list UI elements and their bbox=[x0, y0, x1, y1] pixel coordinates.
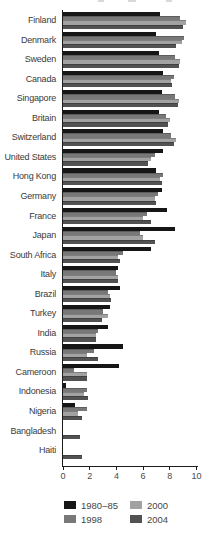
x-axis-tick bbox=[116, 467, 117, 470]
x-axis-tick-label: 8 bbox=[162, 471, 178, 481]
bar-group bbox=[63, 227, 175, 244]
bar-group bbox=[63, 168, 163, 185]
bar-2004 bbox=[63, 318, 102, 322]
bar-group bbox=[63, 247, 151, 264]
legend-label: 2004 bbox=[147, 513, 168, 526]
bar-group bbox=[63, 90, 179, 107]
x-axis-line bbox=[62, 466, 198, 467]
bar-group bbox=[63, 266, 118, 283]
country-label: Singapore bbox=[0, 90, 56, 107]
x-axis-tick-label: 10 bbox=[189, 471, 205, 481]
legend-item-1980-85: 1980–85 bbox=[64, 499, 128, 513]
country-label: Russia bbox=[0, 344, 56, 361]
x-axis-tick-label: 2 bbox=[82, 471, 98, 481]
country-label: Japan bbox=[0, 227, 56, 244]
bar-group bbox=[63, 51, 180, 68]
bar-2004 bbox=[63, 298, 111, 302]
x-axis-tick-label: 0 bbox=[55, 471, 71, 481]
cropped-title-remnant bbox=[128, 0, 136, 2]
x-axis-tick bbox=[143, 467, 144, 470]
bar-2004 bbox=[63, 357, 98, 361]
bar-2004 bbox=[63, 435, 80, 439]
bar-group bbox=[63, 149, 163, 166]
bar-group bbox=[63, 423, 80, 440]
cropped-title-remnant bbox=[98, 0, 104, 2]
bar-2004 bbox=[63, 122, 168, 126]
country-label: India bbox=[0, 325, 56, 342]
bar-2004 bbox=[63, 83, 172, 87]
legend-label: 1980–85 bbox=[81, 499, 118, 512]
country-label: Italy bbox=[0, 266, 56, 283]
legend-item-2004: 2004 bbox=[130, 513, 168, 527]
legend-item-1998: 1998 bbox=[64, 513, 128, 527]
country-label: Nigeria bbox=[0, 403, 56, 420]
bar-group bbox=[63, 403, 87, 420]
country-label: Germany bbox=[0, 188, 56, 205]
bar-2004 bbox=[63, 103, 178, 107]
country-label: Hong Kong bbox=[0, 168, 56, 185]
country-label: United States bbox=[0, 149, 56, 166]
x-axis-tick-label: 4 bbox=[108, 471, 124, 481]
country-label: Brazil bbox=[0, 286, 56, 303]
legend: 1980–85199820002004 bbox=[64, 499, 168, 527]
bar-2004 bbox=[63, 455, 82, 459]
bar-2004 bbox=[63, 142, 174, 146]
bar-2004 bbox=[63, 64, 179, 68]
bar-group bbox=[63, 344, 123, 361]
x-axis-tick bbox=[169, 467, 170, 470]
country-label: Denmark bbox=[0, 32, 56, 49]
legend-swatch-1980-85 bbox=[64, 501, 76, 509]
country-label: Indonesia bbox=[0, 383, 56, 400]
bar-group bbox=[63, 32, 184, 49]
bar-2004 bbox=[63, 240, 155, 244]
country-label: Cameroon bbox=[0, 364, 56, 381]
country-label: Canada bbox=[0, 71, 56, 88]
bar-group bbox=[63, 305, 110, 322]
bar-group bbox=[63, 129, 176, 146]
country-label: France bbox=[0, 208, 56, 225]
bar-group bbox=[63, 208, 167, 225]
bar-2004 bbox=[63, 201, 156, 205]
bar-group bbox=[63, 325, 108, 342]
country-label: Sweden bbox=[0, 51, 56, 68]
bar-2004 bbox=[63, 396, 88, 400]
x-axis-tick-label: 6 bbox=[135, 471, 151, 481]
x-axis-tick bbox=[89, 467, 90, 470]
x-axis-tick bbox=[63, 467, 64, 470]
bar-group bbox=[63, 383, 88, 400]
bar-group bbox=[63, 12, 186, 29]
bar-2004 bbox=[63, 376, 87, 380]
bar-2004 bbox=[63, 259, 120, 263]
bar-group bbox=[63, 364, 119, 381]
bar-2004 bbox=[63, 279, 118, 283]
bar-group bbox=[63, 442, 82, 459]
bar-2004 bbox=[63, 25, 183, 29]
country-label: South Africa bbox=[0, 247, 56, 264]
country-label: Turkey bbox=[0, 305, 56, 322]
legend-label: 2000 bbox=[147, 499, 168, 512]
bar-2004 bbox=[63, 161, 148, 165]
corruption-index-bar-chart: FinlandDenmarkSwedenCanadaSingaporeBrita… bbox=[0, 0, 207, 537]
cropped-title-remnant bbox=[166, 0, 172, 2]
x-axis-tick bbox=[196, 467, 197, 470]
bar-group bbox=[63, 286, 120, 303]
country-label: Britain bbox=[0, 110, 56, 127]
legend-item-2000: 2000 bbox=[130, 499, 168, 513]
bar-group bbox=[63, 110, 170, 127]
bar-2004 bbox=[63, 416, 82, 420]
legend-swatch-2000 bbox=[130, 501, 142, 509]
bar-group bbox=[63, 188, 162, 205]
bar-2004 bbox=[63, 181, 162, 185]
bar-2004 bbox=[63, 44, 176, 48]
country-label: Haiti bbox=[0, 442, 56, 459]
country-label: Switzerland bbox=[0, 129, 56, 146]
country-label: Bangladesh bbox=[0, 423, 56, 440]
legend-swatch-2004 bbox=[130, 515, 142, 523]
legend-swatch-1998 bbox=[64, 515, 76, 523]
country-label: Finland bbox=[0, 12, 56, 29]
legend-label: 1998 bbox=[81, 513, 102, 526]
bar-group bbox=[63, 71, 174, 88]
bar-2004 bbox=[63, 337, 96, 341]
bar-2004 bbox=[63, 220, 151, 224]
